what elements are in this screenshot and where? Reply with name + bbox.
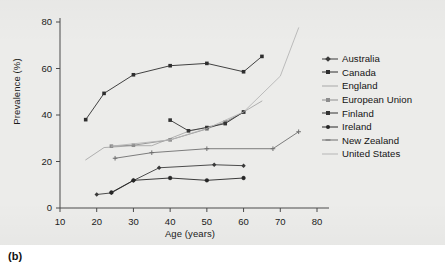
legend-item-label: European Union [342,94,412,105]
legend-item-label: United States [342,148,400,159]
data-point [168,64,172,68]
legend-swatch-icon [322,122,338,132]
data-point [168,176,172,180]
y-tick-label: 60 [26,63,52,74]
series-line [111,178,243,192]
series-finland [168,110,245,132]
x-tick-label: 50 [193,216,221,227]
legend-item-label: Canada [342,67,376,78]
legend-item-label: Australia [342,53,380,64]
data-point [157,166,161,170]
series-united-states [111,28,298,146]
legend-swatch-icon [322,95,338,105]
y-tick-label: 40 [26,109,52,120]
data-point [102,92,106,96]
data-point [95,192,99,196]
x-tick-label: 10 [46,216,74,227]
series-line [115,132,299,159]
series-line [111,112,243,146]
data-point [242,70,246,74]
data-point [84,118,88,122]
data-point [223,122,227,126]
legend-item-label: England [342,80,378,91]
chart-legend: AustraliaCanadaEnglandEuropean UnionFinl… [322,52,442,161]
figure-root: Prevalence (%) Age (years) AustraliaCana… [0,0,445,277]
legend-item-ireland[interactable]: Ireland [322,120,442,134]
series-canada [84,55,264,122]
legend-item-canada[interactable]: Canada [322,66,442,80]
legend-item-new-zealand[interactable]: New Zealand [322,134,442,148]
legend-item-label: Ireland [342,121,372,132]
y-tick-label: 80 [26,16,52,27]
data-point [132,73,136,77]
legend-swatch-icon [322,108,338,118]
series-european-union [110,110,246,148]
data-point [168,118,172,122]
x-tick-label: 70 [266,216,294,227]
y-tick-label: 0 [26,202,52,213]
legend-swatch-icon [322,135,338,145]
x-tick-label: 30 [119,216,147,227]
series-line [111,28,298,146]
data-point [242,176,246,180]
legend-item-label: New Zealand [342,135,399,146]
legend-swatch-icon [322,67,338,77]
x-tick-label: 60 [230,216,258,227]
series-new-zealand [113,129,301,160]
x-tick-label: 80 [303,216,331,227]
legend-swatch-icon [322,149,338,159]
data-point [132,178,136,182]
figure-caption: (b) [8,250,22,262]
x-axis-title: Age (years) [140,228,240,239]
series-line [86,56,262,119]
legend-item-england[interactable]: England [322,79,442,93]
data-point [241,163,245,167]
y-tick-label: 20 [26,156,52,167]
x-tick-label: 20 [83,216,111,227]
data-point [260,55,264,59]
legend-item-label: Finland [342,108,374,119]
legend-swatch-icon [322,54,338,64]
data-point [205,62,209,66]
data-point [110,191,114,195]
legend-item-finland[interactable]: Finland [322,106,442,120]
chart-panel: Prevalence (%) Age (years) AustraliaCana… [0,0,445,245]
legend-item-european-union[interactable]: European Union [322,93,442,107]
legend-item-united-states[interactable]: United States [322,147,442,161]
data-point [205,178,209,182]
data-point [187,129,191,133]
y-axis-title: Prevalence (%) [11,52,22,132]
series-ireland [110,176,246,194]
x-tick-label: 40 [156,216,184,227]
legend-swatch-icon [322,81,338,91]
legend-item-australia[interactable]: Australia [322,52,442,66]
data-point [212,163,216,167]
